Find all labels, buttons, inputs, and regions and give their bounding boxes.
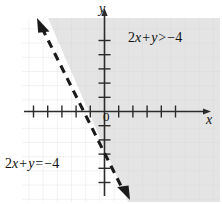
equation-constant: −4 — [44, 156, 59, 171]
origin-label: 0 — [103, 110, 110, 123]
equation-relation-sign: = — [34, 156, 44, 171]
inequality-constant: −4 — [167, 30, 182, 45]
x-axis-label: x — [206, 113, 212, 127]
inequality-relation-sign: > — [157, 30, 167, 45]
coordinate-plane — [0, 0, 222, 204]
equation-label: 2x+y=−4 — [5, 157, 59, 171]
inequality-plus-sign: + — [141, 30, 151, 45]
y-axis-label: y — [99, 2, 105, 16]
inequality-label: 2x+y>−4 — [128, 31, 182, 45]
inequality-coefficient: 2 — [128, 30, 135, 45]
equation-coefficient: 2 — [5, 156, 12, 171]
equation-plus-sign: + — [18, 156, 28, 171]
inequality-graph-figure: y x 0 2x+y>−4 2x+y=−4 — [0, 0, 222, 204]
